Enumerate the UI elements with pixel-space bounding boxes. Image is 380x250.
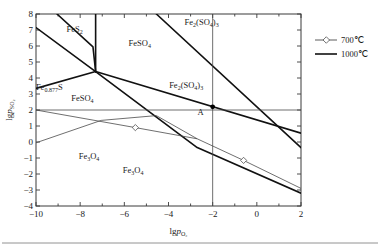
y-tick-label: 0 — [29, 137, 34, 147]
x-tick-label: 0 — [255, 209, 260, 219]
phase-label: Fe2(SO4)3 — [185, 17, 219, 28]
y-tick-label: 8 — [29, 9, 34, 19]
x-tick-label: −2 — [208, 209, 218, 219]
y-tick-label: −4 — [23, 201, 33, 211]
legend-label: 700℃ — [341, 35, 364, 45]
y-tick-label: −2 — [23, 169, 33, 179]
phase-label: FeSO4 — [129, 38, 151, 49]
x-tick-label: −4 — [164, 209, 174, 219]
y-tick-label: 3 — [29, 89, 34, 99]
y-tick-label: 2 — [29, 105, 34, 115]
phase-label: Fe2(SO4)3 — [169, 80, 203, 91]
annotation-label-a: A — [198, 107, 205, 117]
x-tick-label: −6 — [120, 209, 130, 219]
y-tick-label: 1 — [29, 121, 34, 131]
y-tick-label: 7 — [29, 25, 34, 35]
chart-svg: −10−8−6−4−202−4−3−2−1012345678FeS2FeSO4F… — [0, 0, 380, 250]
x-axis-title: lgpO₂ — [170, 226, 188, 237]
x-tick-label: −8 — [75, 209, 85, 219]
annotation-point-a — [210, 104, 215, 109]
y-tick-label: −1 — [23, 153, 33, 163]
y-axis-title: lgpSO₂ — [4, 99, 15, 120]
chart-legend: 700℃1000℃ — [315, 35, 368, 59]
y-axis-title-group: lgpSO₂ — [4, 99, 15, 120]
y-tick-label: 5 — [29, 57, 34, 67]
phase-label: FeSO4 — [71, 93, 93, 104]
y-tick-label: −3 — [23, 185, 33, 195]
y-tick-label: 4 — [29, 73, 34, 83]
legend-label: 1000℃ — [341, 49, 368, 59]
chart-figure: −10−8−6−4−202−4−3−2−1012345678FeS2FeSO4F… — [0, 0, 380, 250]
legend-marker — [323, 37, 330, 44]
y-tick-label: 6 — [29, 41, 34, 51]
x-tick-label: 2 — [299, 209, 304, 219]
